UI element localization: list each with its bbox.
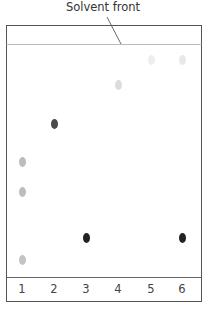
lane-label-5: 5	[141, 282, 161, 296]
spot-lane-6	[179, 233, 186, 243]
lane-label-1: 1	[12, 282, 32, 296]
lane-label-2: 2	[44, 282, 64, 296]
spot-lane-4	[115, 80, 122, 90]
spot-lane-5	[148, 55, 155, 65]
spot-lane-2	[51, 119, 58, 129]
tlc-plate-diagram: Solvent front 123456	[0, 0, 206, 309]
spot-lane-6	[179, 55, 186, 65]
spot-lane-1	[19, 157, 26, 167]
lane-label-6: 6	[172, 282, 192, 296]
plate-frame	[0, 0, 206, 309]
leader-line	[107, 17, 121, 44]
spot-lane-3	[83, 233, 90, 243]
lane-label-3: 3	[76, 282, 96, 296]
lane-label-4: 4	[108, 282, 128, 296]
spot-lane-1	[19, 187, 26, 197]
spot-lane-1	[19, 255, 26, 265]
